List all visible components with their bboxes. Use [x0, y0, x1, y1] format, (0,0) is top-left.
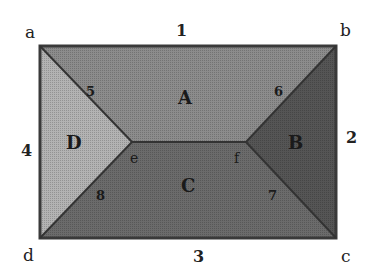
roof-diagram: a b c d 1 2 3 4 A B C D 5 6 7 8 e f [0, 0, 376, 279]
corner-label-a: a [25, 22, 35, 42]
hip-label-8: 8 [96, 188, 105, 203]
hip-label-7: 7 [268, 188, 277, 203]
face-label-c: C [181, 175, 195, 196]
corner-label-b: b [340, 20, 351, 40]
hip-label-6: 6 [274, 84, 283, 99]
edge-label-4: 4 [21, 141, 32, 160]
face-label-b: B [288, 132, 303, 153]
edge-label-1: 1 [176, 21, 187, 40]
corner-label-d: d [23, 245, 34, 265]
face-label-d: D [66, 132, 82, 153]
edge-label-3: 3 [193, 247, 204, 266]
corner-label-c: c [341, 246, 351, 266]
hip-label-5: 5 [86, 84, 95, 99]
ridge-point-e: e [130, 150, 138, 166]
edge-label-2: 2 [346, 128, 357, 147]
face-label-a: A [177, 87, 193, 108]
